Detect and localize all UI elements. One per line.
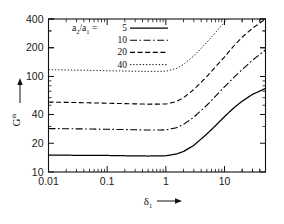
figure-container: 0.010.1110400200100402010 Gth δ1 a2/a1 =… xyxy=(0,0,284,224)
legend-label-5: 5 xyxy=(122,23,127,33)
legend-title: a2/a1 = xyxy=(72,23,97,35)
y-tick-label-20: 20 xyxy=(32,137,44,149)
x-tick-label-0.1: 0.1 xyxy=(100,175,115,187)
legend-label-40: 40 xyxy=(118,60,128,70)
y-axis-title-superscript: th xyxy=(10,113,17,119)
legend-label-10: 10 xyxy=(118,35,128,45)
legend-label-20: 20 xyxy=(118,47,128,57)
y-tick-label-100: 100 xyxy=(26,70,44,82)
y-tick-label-200: 200 xyxy=(26,41,44,53)
x-axis-title-subscript: 1 xyxy=(149,202,152,209)
x-tick-label-1: 1 xyxy=(163,175,169,187)
x-tick-label-10: 10 xyxy=(219,175,231,187)
y-tick-label-40: 40 xyxy=(32,108,44,120)
y-axis-title-main: G xyxy=(10,119,22,127)
y-tick-label-10: 10 xyxy=(32,166,44,178)
y-tick-label-400: 400 xyxy=(26,13,44,25)
log-log-line-chart: 0.010.1110400200100402010 Gth δ1 a2/a1 =… xyxy=(0,0,284,224)
